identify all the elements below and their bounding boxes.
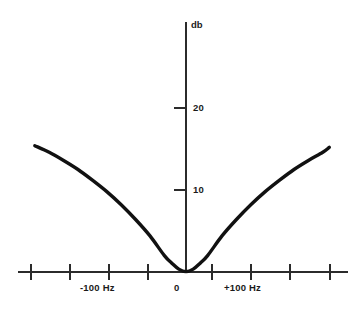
y-axis-title: db <box>191 20 203 30</box>
x-axis-tick-label-positive-100hz: +100 Hz <box>224 283 261 293</box>
y-axis-tick-label-20: 20 <box>193 103 204 113</box>
x-axis-tick-label-negative-100hz: -100 Hz <box>80 283 115 293</box>
chart-plot-area <box>0 0 362 311</box>
response-curve <box>35 146 329 272</box>
x-axis-tick-label-zero: 0 <box>174 283 179 293</box>
y-axis-tick-label-10: 10 <box>193 185 204 195</box>
chart-figure: db 20 10 -100 Hz 0 +100 Hz <box>0 0 362 311</box>
